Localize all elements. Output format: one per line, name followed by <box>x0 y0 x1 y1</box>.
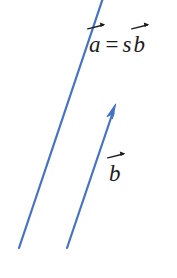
vector-b-letter: b <box>109 162 121 185</box>
scalar-s-letter: s <box>122 33 132 56</box>
equals-sign: = <box>102 33 123 56</box>
vector-a-symbol: a <box>88 33 102 56</box>
vector-b-symbol: b <box>108 162 122 185</box>
equation-a-equals-s-b: a =s b <box>88 33 146 56</box>
vector-b-symbol-in-equation: b <box>132 33 146 56</box>
vector-diagram-figure: a =s b b <box>0 0 177 278</box>
vector-b-label: b <box>108 162 122 185</box>
vector-b-shaft <box>67 109 114 248</box>
vector-a-letter: a <box>89 33 101 56</box>
vector-b-letter: b <box>133 33 145 56</box>
